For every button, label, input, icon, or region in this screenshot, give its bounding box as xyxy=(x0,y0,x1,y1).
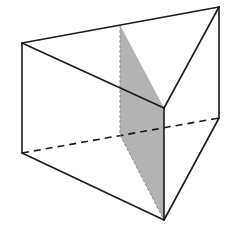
bottom-right-front-edge xyxy=(164,118,219,220)
top-right-front-edge xyxy=(164,7,219,108)
triangular-prism-diagram xyxy=(0,0,239,233)
shaded-cross-section xyxy=(120,25,164,220)
